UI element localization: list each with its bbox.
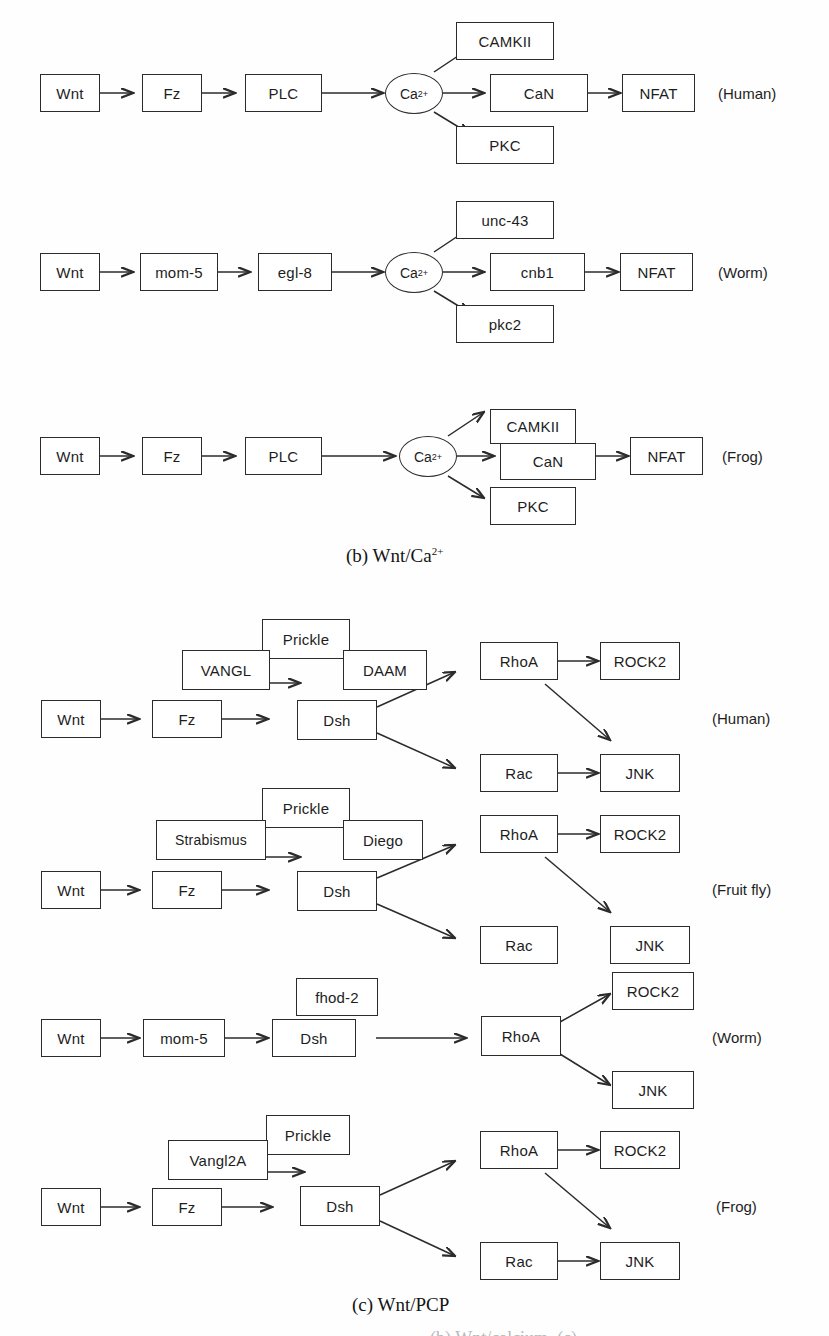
node-dsh[interactable]: Dsh	[272, 1019, 356, 1057]
node-jnk[interactable]: JNK	[600, 1242, 680, 1280]
node-dsh[interactable]: Dsh	[297, 871, 377, 911]
node-calcium-hub[interactable]: Ca2+	[399, 436, 457, 477]
calcium-label: Ca	[400, 265, 418, 281]
node-calcium-hub[interactable]: Ca2+	[385, 73, 443, 114]
node-dsh[interactable]: Dsh	[297, 700, 377, 740]
node-wnt[interactable]: Wnt	[41, 1188, 101, 1226]
species-label-worm: (Worm)	[718, 264, 768, 281]
node-fz[interactable]: Fz	[152, 1188, 222, 1226]
node-prickle[interactable]: Prickle	[262, 788, 350, 828]
node-cnb1[interactable]: cnb1	[490, 253, 585, 291]
node-wnt[interactable]: Wnt	[40, 74, 100, 112]
node-rhoa[interactable]: RhoA	[480, 1131, 558, 1169]
node-nfat[interactable]: NFAT	[620, 253, 693, 291]
caption-b-text: (b) Wnt/Ca	[346, 545, 432, 566]
species-label-human: (Human)	[712, 710, 770, 727]
node-egl8[interactable]: egl-8	[258, 253, 332, 291]
node-rhoa[interactable]: RhoA	[480, 642, 558, 680]
node-vangl[interactable]: VANGL	[182, 650, 270, 690]
node-diego[interactable]: Diego	[343, 820, 423, 860]
node-rock2[interactable]: ROCK2	[600, 815, 680, 853]
figure-canvas: Wnt Fz PLC Ca2+ CAMKII CaN PKC NFAT (Hum…	[0, 0, 829, 1336]
node-rhoa[interactable]: RhoA	[480, 815, 558, 853]
node-rac[interactable]: Rac	[480, 754, 558, 792]
node-mom5[interactable]: mom-5	[143, 1019, 225, 1057]
node-nfat[interactable]: NFAT	[630, 437, 703, 475]
node-wnt[interactable]: Wnt	[41, 1019, 101, 1057]
node-pkc[interactable]: PKC	[490, 487, 576, 525]
node-strabismus[interactable]: Strabismus	[156, 820, 266, 860]
node-pkc[interactable]: PKC	[456, 126, 554, 164]
node-jnk[interactable]: JNK	[610, 926, 690, 964]
node-plc[interactable]: PLC	[245, 74, 322, 112]
calcium-label: Ca	[414, 449, 432, 465]
node-rock2[interactable]: ROCK2	[612, 972, 694, 1010]
node-prickle[interactable]: Prickle	[266, 1115, 350, 1155]
calcium-label: Ca	[400, 86, 418, 102]
node-dsh[interactable]: Dsh	[300, 1186, 380, 1226]
species-label-human: (Human)	[718, 85, 776, 102]
node-camkii[interactable]: CAMKII	[456, 22, 554, 60]
caption-panel-b: (b) Wnt/Ca2+	[346, 545, 443, 567]
node-wnt[interactable]: Wnt	[40, 437, 100, 475]
node-prickle[interactable]: Prickle	[262, 619, 350, 659]
node-calcium-hub[interactable]: Ca2+	[385, 252, 443, 293]
node-fz[interactable]: Fz	[152, 871, 222, 909]
node-rac[interactable]: Rac	[480, 926, 558, 964]
node-can[interactable]: CaN	[490, 74, 588, 112]
node-rock2[interactable]: ROCK2	[600, 642, 680, 680]
node-fz[interactable]: Fz	[152, 700, 222, 738]
species-label-frog: (Frog)	[716, 1198, 757, 1215]
node-vangl2a[interactable]: Vangl2A	[168, 1140, 268, 1180]
species-label-frog: (Frog)	[722, 448, 763, 465]
node-wnt[interactable]: Wnt	[41, 700, 101, 738]
caption-b-superscript: 2+	[432, 545, 444, 557]
node-jnk[interactable]: JNK	[600, 754, 680, 792]
node-rac[interactable]: Rac	[480, 1242, 558, 1280]
node-rhoa[interactable]: RhoA	[481, 1016, 561, 1056]
node-nfat[interactable]: NFAT	[622, 74, 695, 112]
species-label-fruit-fly: (Fruit fly)	[712, 881, 771, 898]
node-camkii[interactable]: CAMKII	[490, 409, 576, 444]
node-wnt[interactable]: Wnt	[41, 871, 101, 909]
node-unc43[interactable]: unc-43	[456, 201, 554, 239]
node-daam[interactable]: DAAM	[343, 650, 427, 690]
caption-panel-c: (c) Wnt/PCP	[352, 1294, 449, 1316]
node-mom5[interactable]: mom-5	[140, 253, 218, 291]
node-fz[interactable]: Fz	[142, 437, 202, 475]
node-plc[interactable]: PLC	[245, 437, 322, 475]
node-fz[interactable]: Fz	[142, 74, 202, 112]
species-label-worm: (Worm)	[712, 1029, 762, 1046]
node-wnt[interactable]: Wnt	[40, 253, 100, 291]
node-jnk[interactable]: JNK	[612, 1071, 694, 1109]
node-rock2[interactable]: ROCK2	[600, 1131, 680, 1169]
bottom-cutoff-text: (b) Wnt/calcium, (c)	[430, 1328, 577, 1336]
node-can[interactable]: CaN	[500, 443, 596, 480]
node-pkc2[interactable]: pkc2	[456, 305, 554, 343]
node-fhod2[interactable]: fhod-2	[296, 978, 378, 1016]
